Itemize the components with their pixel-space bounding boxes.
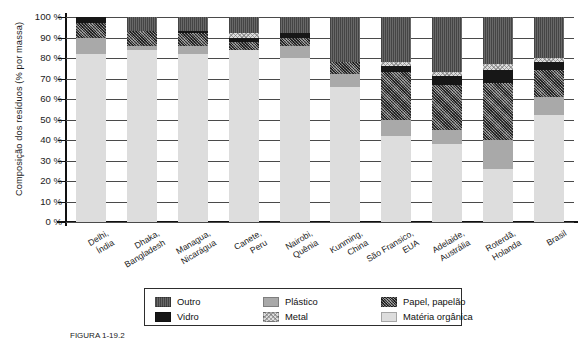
bar-segment-outro <box>381 17 411 62</box>
stacked-bar <box>178 17 208 222</box>
bar-segment-plastico <box>534 97 564 115</box>
legend-label: Outro <box>177 296 200 307</box>
figure-waste-composition-chart: Composição dos resíduos (% por massa) 10… <box>0 0 586 340</box>
legend-swatch-metal <box>263 312 279 322</box>
bar-segment-outro <box>432 17 462 72</box>
bar-segment-papel <box>76 23 106 37</box>
stacked-bar <box>127 17 157 222</box>
bar-segment-papel <box>534 70 564 97</box>
bar-segment-outro <box>127 17 157 31</box>
chart-legend: OutroVidroPlásticoMetalPapel, papelãoMat… <box>144 288 462 326</box>
y-axis-tick-label: 50 % <box>14 114 62 125</box>
bar-segment-organica <box>178 54 208 222</box>
figure-caption: FIGURA 1-19.2 <box>70 331 125 340</box>
bar-segment-outro <box>280 17 310 33</box>
legend-swatch-papel <box>381 297 397 307</box>
legend-swatch-plastico <box>263 297 279 307</box>
bar-segment-metal <box>483 64 513 70</box>
bar-segment-organica <box>534 115 564 222</box>
bar-segment-metal <box>381 62 411 66</box>
y-axis-tick-label: 10 % <box>14 196 62 207</box>
bar-segment-papel <box>178 33 208 45</box>
bar-segment-plastico <box>178 46 208 54</box>
legend-label: Vidro <box>177 311 199 322</box>
y-axis-tick-label: 60 % <box>14 93 62 104</box>
bar-segment-organica <box>381 136 411 222</box>
bar-segment-papel <box>127 31 157 45</box>
gridline <box>66 222 574 223</box>
bar-segment-outro <box>330 17 360 62</box>
bar-segment-plastico <box>127 46 157 50</box>
bar-segment-vidro <box>229 38 259 42</box>
stacked-bar <box>280 17 310 222</box>
bar-segment-organica <box>127 50 157 222</box>
stacked-bar <box>229 17 259 222</box>
legend-swatch-outro <box>155 297 171 307</box>
stacked-bar <box>483 17 513 222</box>
bar-segment-metal <box>432 72 462 76</box>
bar-segment-organica <box>483 169 513 222</box>
bar-segment-vidro <box>178 31 208 33</box>
bar-segment-metal <box>229 33 259 37</box>
bar-segment-papel <box>432 85 462 130</box>
bar-segment-metal <box>534 58 564 62</box>
y-axis-tick-label: 0 % <box>14 216 62 227</box>
bar-segment-vidro <box>280 33 310 37</box>
stacked-bar <box>381 17 411 222</box>
stacked-bar <box>330 17 360 222</box>
y-axis-tick-label: 80 % <box>14 52 62 63</box>
bar-segment-papel <box>381 72 411 119</box>
bar-segment-vidro <box>381 66 411 72</box>
bar-segment-vidro <box>76 17 106 23</box>
bar-segment-outro <box>229 17 259 33</box>
legend-swatch-vidro <box>155 312 171 322</box>
legend-label: Metal <box>285 311 308 322</box>
stacked-bar <box>432 17 462 222</box>
legend-label: Papel, papelão <box>403 296 466 307</box>
bar-segment-plastico <box>330 74 360 86</box>
stacked-bar <box>76 17 106 222</box>
bar-segment-papel <box>330 62 360 74</box>
bar-segment-outro <box>534 17 564 58</box>
bar-segment-organica <box>229 50 259 222</box>
legend-label: Matéria orgânica <box>403 311 473 322</box>
bar-segment-organica <box>76 54 106 222</box>
bar-segment-plastico <box>381 120 411 136</box>
y-axis-tick-label: 30 % <box>14 155 62 166</box>
plot-area <box>66 17 574 222</box>
bar-segment-papel <box>229 42 259 50</box>
bar-segment-vidro <box>534 62 564 70</box>
bar-segment-plastico <box>76 38 106 54</box>
bar-segment-papel <box>483 83 513 140</box>
bar-segment-vidro <box>483 70 513 82</box>
bar-segment-outro <box>178 17 208 31</box>
bar-segment-organica <box>432 144 462 222</box>
bar-segment-vidro <box>432 76 462 84</box>
y-axis-tick-label: 20 % <box>14 175 62 186</box>
bar-segment-organica <box>330 87 360 222</box>
bar-segment-outro <box>483 17 513 64</box>
bar-segment-plastico <box>483 140 513 169</box>
bar-segment-organica <box>280 58 310 222</box>
y-axis-tick-label: 100 % <box>14 11 62 22</box>
bar-segment-plastico <box>280 46 310 58</box>
y-axis-tick-label: 90 % <box>14 32 62 43</box>
bar-segment-papel <box>280 38 310 46</box>
y-axis-tick-label: 40 % <box>14 134 62 145</box>
y-axis-tick-label: 70 % <box>14 73 62 84</box>
legend-swatch-organica <box>381 312 397 322</box>
legend-label: Plástico <box>285 296 318 307</box>
stacked-bar <box>534 17 564 222</box>
bar-segment-plastico <box>432 130 462 144</box>
